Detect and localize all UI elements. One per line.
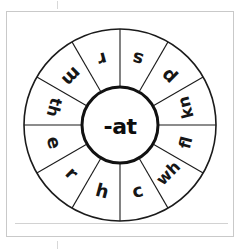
- worksheet-page: rspknflwhchrethm -at: [0, 0, 242, 251]
- registration-tick-top: [57, 1, 58, 9]
- word-family-center-label: -at: [104, 114, 138, 139]
- registration-tick-bottom: [57, 241, 58, 249]
- word-family-wheel[interactable]: rspknflwhchrethm -at: [21, 26, 219, 224]
- wheel-graphic: rspknflwhchrethm -at: [21, 26, 219, 224]
